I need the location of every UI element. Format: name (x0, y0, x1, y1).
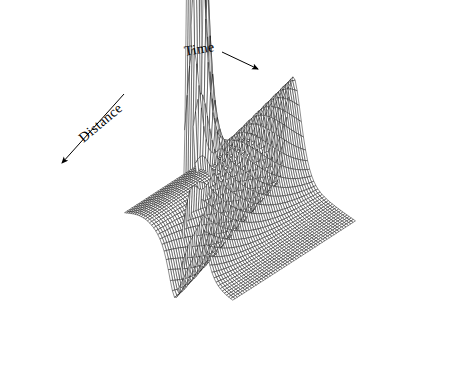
wireframe-mesh (0, 0, 470, 384)
soliton-surface-figure: Time Distance (0, 0, 470, 384)
